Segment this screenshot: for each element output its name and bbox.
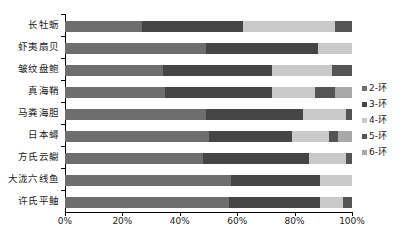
legend-item[interactable]: 6-环 [362, 144, 410, 160]
y-axis-tick [61, 190, 65, 191]
bar-segment [292, 131, 329, 142]
category-label: 方氏云鳚 [0, 152, 59, 162]
bar-segment [165, 87, 271, 98]
bar-segment [272, 87, 315, 98]
bar-segment [209, 131, 292, 142]
x-axis-tick-label: 40% [170, 216, 190, 227]
bar-segment [206, 109, 304, 120]
category-label: 皱纹盘鲍 [0, 64, 59, 74]
legend-label: 2-环 [369, 83, 387, 93]
bar-segment [65, 43, 206, 54]
legend-label: 4-环 [369, 115, 387, 125]
bar-segment [346, 153, 352, 164]
bar-row [65, 153, 352, 164]
bar-segment [65, 109, 206, 120]
legend-swatch-icon [362, 118, 367, 123]
x-axis-tick-label: 60% [227, 216, 247, 227]
bar-segment [65, 175, 231, 186]
bar-segment [309, 153, 346, 164]
category-axis: 长牡蛎虾夷扇贝皱纹盘鲍真海鞘马粪海胆日本蟳方氏云鳚大泷六线鱼许氏平鲉 [0, 14, 62, 212]
bar-segment [142, 21, 242, 32]
bar-segment [343, 197, 352, 208]
legend-item[interactable]: 2-环 [362, 80, 410, 96]
legend-swatch-icon [362, 134, 367, 139]
y-axis-tick [61, 58, 65, 59]
bar-segment [65, 87, 165, 98]
legend-item[interactable]: 3-环 [362, 96, 410, 112]
category-label: 大泷六线鱼 [0, 174, 59, 184]
bar-segment [65, 65, 163, 76]
bar-segment [163, 65, 272, 76]
bar-segment [229, 197, 321, 208]
y-axis-tick [61, 146, 65, 147]
y-axis-tick [61, 36, 65, 37]
bar-segment [243, 21, 335, 32]
legend-label: 5-环 [369, 131, 387, 141]
bar-segment [335, 21, 352, 32]
y-axis-tick [61, 124, 65, 125]
bar-row [65, 43, 352, 54]
category-label: 真海鞘 [0, 86, 59, 96]
y-axis-tick [61, 168, 65, 169]
bar-segment [65, 21, 142, 32]
bar-segment [332, 65, 352, 76]
x-axis-tick-label: 0% [58, 216, 72, 227]
category-label: 长牡蛎 [0, 20, 59, 30]
x-axis-tick-label: 20% [112, 216, 132, 227]
bar-segment [335, 87, 352, 98]
x-axis-tick-label: 80% [285, 216, 305, 227]
bar-row [65, 131, 352, 142]
bar-segment [329, 131, 338, 142]
y-axis-tick [61, 102, 65, 103]
legend-item[interactable]: 4-环 [362, 112, 410, 128]
bar-row [65, 87, 352, 98]
bar-row [65, 21, 352, 32]
bar-segment [231, 175, 320, 186]
chart-legend: 2-环3-环4-环5-环6-环 [362, 80, 410, 160]
bar-segment [203, 153, 309, 164]
legend-swatch-icon [362, 150, 367, 155]
legend-swatch-icon [362, 102, 367, 107]
bar-segment [65, 197, 229, 208]
bar-segment [303, 109, 346, 120]
category-label: 马粪海胆 [0, 108, 59, 118]
category-label: 许氏平鲉 [0, 196, 59, 206]
bar-segment [320, 175, 352, 186]
category-label: 日本蟳 [0, 130, 59, 140]
bar-segment [315, 87, 335, 98]
bar-row [65, 109, 352, 120]
x-axis-tick-label: 100% [339, 216, 365, 227]
plot-area [65, 14, 352, 212]
stacked-bar-chart: 长牡蛎虾夷扇贝皱纹盘鲍真海鞘马粪海胆日本蟳方氏云鳚大泷六线鱼许氏平鲉 0%20%… [0, 0, 410, 251]
bar-row [65, 65, 352, 76]
bar-segment [338, 131, 352, 142]
bar-row [65, 175, 352, 186]
legend-label: 3-环 [369, 99, 387, 109]
y-axis-tick [61, 14, 65, 15]
bar-segment [272, 65, 332, 76]
bar-row [65, 197, 352, 208]
bar-segment [65, 131, 209, 142]
legend-swatch-icon [362, 86, 367, 91]
legend-item[interactable]: 5-环 [362, 128, 410, 144]
bar-segment [346, 109, 352, 120]
x-axis-line [65, 212, 353, 213]
legend-label: 6-环 [369, 147, 387, 157]
bar-segment [318, 43, 352, 54]
category-label: 虾夷扇贝 [0, 42, 59, 52]
y-axis-tick [61, 80, 65, 81]
bar-segment [320, 197, 343, 208]
bar-segment [206, 43, 318, 54]
bar-segment [65, 153, 203, 164]
